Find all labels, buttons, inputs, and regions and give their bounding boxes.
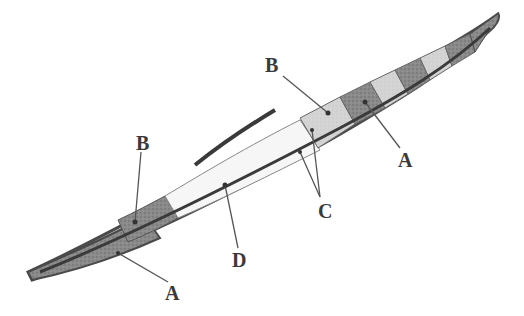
cockpit: [165, 120, 320, 218]
label-a-right: A: [398, 150, 412, 170]
label-d: D: [232, 250, 246, 270]
label-b-left: B: [136, 133, 149, 153]
kayak-diagram: [0, 0, 524, 316]
label-c: C: [318, 201, 332, 221]
label-b-right: B: [265, 55, 278, 75]
label-a-left: A: [165, 283, 179, 303]
